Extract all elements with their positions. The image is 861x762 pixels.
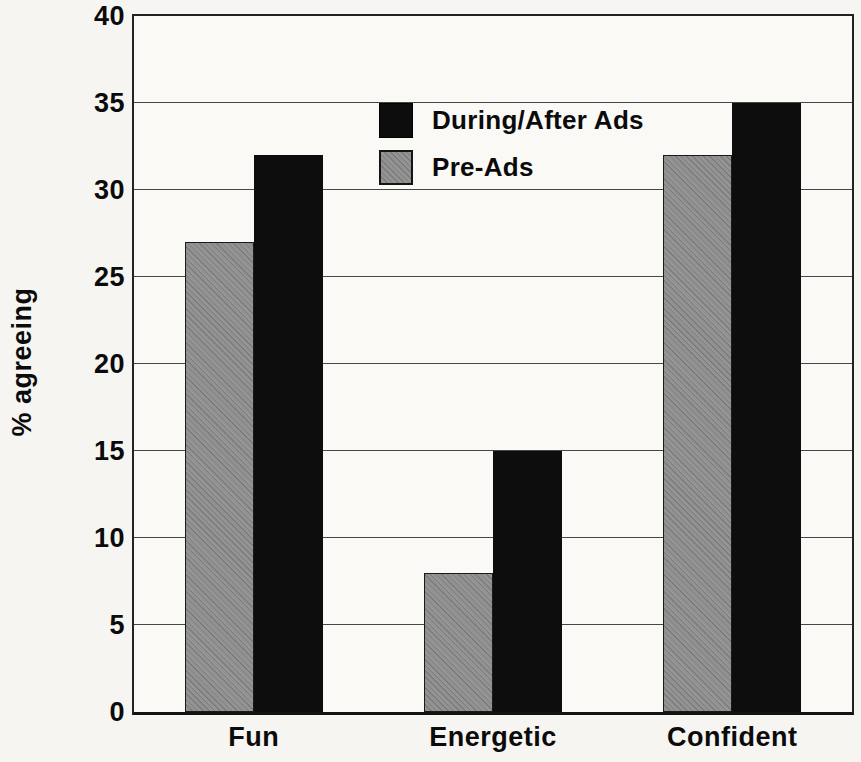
y-axis-tick-labels: 0510152025303540 xyxy=(0,0,125,762)
scanned-bar-chart-page: % agreeing 0510152025303540 During/After… xyxy=(0,0,861,762)
legend-swatch-during-after-ads xyxy=(379,103,413,138)
legend-item-during-after-ads: During/After Ads xyxy=(379,103,644,138)
x-category-label-energetic: Energetic xyxy=(393,722,593,753)
bar-confident-pre-ads xyxy=(663,155,732,712)
plot-area: During/After AdsPre-Ads xyxy=(132,14,854,715)
y-tick-label-40: 40 xyxy=(0,2,125,30)
bar-energetic-during-after-ads xyxy=(493,451,562,712)
bar-confident-during-after-ads xyxy=(732,103,801,712)
x-category-label-confident: Confident xyxy=(632,722,832,753)
legend-item-pre-ads: Pre-Ads xyxy=(379,150,644,185)
bar-fun-pre-ads xyxy=(185,242,254,712)
bar-energetic-pre-ads xyxy=(424,573,493,712)
bar-group-confident xyxy=(613,16,852,712)
bar-fun-during-after-ads xyxy=(254,155,323,712)
x-axis-category-labels: FunEnergeticConfident xyxy=(0,722,861,756)
legend-swatch-pre-ads xyxy=(379,150,413,185)
y-tick-label-5: 5 xyxy=(0,611,125,639)
legend: During/After AdsPre-Ads xyxy=(379,103,644,197)
x-category-label-fun: Fun xyxy=(154,722,354,753)
legend-label-pre-ads: Pre-Ads xyxy=(432,152,534,183)
y-tick-label-30: 30 xyxy=(0,176,125,204)
y-tick-label-35: 35 xyxy=(0,89,125,117)
y-tick-label-25: 25 xyxy=(0,263,125,291)
legend-label-during-after-ads: During/After Ads xyxy=(432,105,644,136)
y-tick-label-20: 20 xyxy=(0,350,125,378)
bar-group-fun xyxy=(134,16,373,712)
y-tick-label-15: 15 xyxy=(0,437,125,465)
y-tick-label-10: 10 xyxy=(0,524,125,552)
